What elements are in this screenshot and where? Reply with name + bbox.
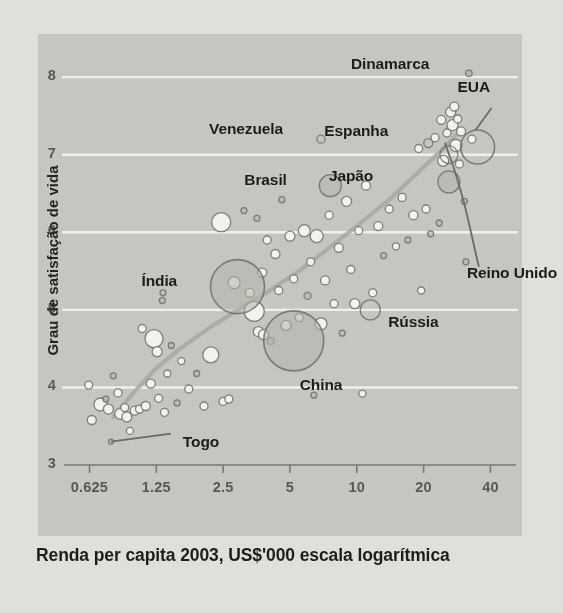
data-point bbox=[418, 287, 425, 294]
data-point bbox=[321, 276, 330, 285]
data-point bbox=[415, 145, 423, 153]
x-tick-label: 0.625 bbox=[63, 479, 117, 495]
data-point bbox=[374, 222, 383, 231]
point-label-china: China bbox=[300, 376, 343, 394]
data-point bbox=[145, 330, 163, 348]
data-point bbox=[342, 196, 352, 206]
x-tick-label: 20 bbox=[397, 479, 451, 495]
chart-figure: 3 4 5 6 7 8 0.625 1.25 2.5 5 10 20 40 Gr… bbox=[0, 0, 563, 613]
data-point bbox=[194, 371, 200, 377]
x-tick-label: 40 bbox=[463, 479, 517, 495]
data-point bbox=[159, 298, 165, 304]
data-point bbox=[103, 396, 109, 402]
data-point-eua bbox=[461, 130, 495, 164]
point-label-reino-unido: Reino Unido bbox=[467, 264, 557, 282]
data-point bbox=[409, 211, 418, 220]
data-point bbox=[436, 220, 442, 226]
data-point bbox=[359, 390, 366, 397]
data-point--ndia bbox=[211, 260, 265, 314]
data-point bbox=[241, 208, 247, 214]
point-label-dinamarca: Dinamarca bbox=[351, 55, 429, 73]
data-point bbox=[121, 404, 129, 412]
data-point bbox=[122, 412, 132, 422]
data-point bbox=[212, 213, 231, 232]
data-point bbox=[285, 231, 295, 241]
leader-line-eua bbox=[476, 108, 492, 130]
data-point bbox=[385, 205, 393, 213]
data-point bbox=[203, 347, 219, 363]
data-point bbox=[168, 343, 174, 349]
point-label-r-ssia: Rússia bbox=[388, 313, 438, 331]
x-tick-label: 1.25 bbox=[129, 479, 183, 495]
data-point bbox=[279, 197, 285, 203]
data-point bbox=[330, 300, 338, 308]
data-point bbox=[110, 373, 116, 379]
data-point bbox=[271, 250, 280, 259]
data-point bbox=[355, 227, 363, 235]
data-point bbox=[392, 243, 399, 250]
data-point bbox=[160, 290, 166, 296]
data-point bbox=[263, 236, 271, 244]
data-point bbox=[87, 416, 96, 425]
data-point bbox=[450, 102, 459, 111]
y-tick-label: 8 bbox=[34, 67, 56, 83]
leader-line-togo bbox=[111, 434, 171, 442]
data-point bbox=[437, 115, 446, 124]
data-point bbox=[381, 253, 387, 259]
data-point bbox=[398, 193, 406, 201]
data-point bbox=[339, 330, 345, 336]
data-point bbox=[369, 289, 377, 297]
data-point bbox=[164, 370, 171, 377]
point-label-jap-o: Japão bbox=[329, 167, 373, 185]
data-point bbox=[350, 299, 360, 309]
data-point bbox=[405, 237, 411, 243]
data-point bbox=[325, 211, 333, 219]
data-point bbox=[155, 394, 163, 402]
point-label-espanha: Espanha bbox=[324, 122, 388, 140]
data-point bbox=[146, 379, 155, 388]
data-point bbox=[304, 292, 311, 299]
x-tick-label: 2.5 bbox=[196, 479, 250, 495]
data-point bbox=[254, 215, 260, 221]
data-point bbox=[161, 408, 169, 416]
data-point bbox=[138, 325, 146, 333]
data-point bbox=[468, 135, 476, 143]
data-point bbox=[126, 427, 133, 434]
data-point bbox=[310, 230, 323, 243]
point-label-brasil: Brasil bbox=[244, 171, 286, 189]
data-point bbox=[85, 381, 93, 389]
point-label-venezuela: Venezuela bbox=[209, 120, 283, 138]
x-axis-title: Renda per capita 2003, US$'000 escala lo… bbox=[36, 545, 536, 566]
data-point bbox=[275, 287, 283, 295]
data-point bbox=[455, 160, 463, 168]
data-point bbox=[200, 402, 208, 410]
data-point bbox=[290, 275, 298, 283]
data-point bbox=[298, 225, 310, 237]
data-point bbox=[225, 395, 233, 403]
data-point bbox=[347, 266, 355, 274]
data-point bbox=[178, 358, 185, 365]
data-point-dinamarca bbox=[466, 70, 472, 76]
point-label-togo: Togo bbox=[183, 433, 219, 451]
data-point bbox=[334, 243, 343, 252]
data-point bbox=[103, 404, 113, 414]
data-point bbox=[307, 258, 315, 266]
data-point bbox=[185, 385, 193, 393]
x-tick-label: 5 bbox=[263, 479, 317, 495]
y-tick-label: 3 bbox=[34, 455, 56, 471]
data-point bbox=[422, 205, 430, 213]
data-point bbox=[114, 389, 122, 397]
y-axis-title: Grau de satisfação de vida bbox=[44, 131, 61, 391]
data-point bbox=[457, 127, 466, 136]
data-point bbox=[454, 115, 462, 123]
point-label-eua: EUA bbox=[458, 78, 490, 96]
data-point-china bbox=[264, 311, 324, 371]
x-tick-label: 10 bbox=[330, 479, 384, 495]
data-point bbox=[174, 400, 180, 406]
data-point-espanha bbox=[424, 139, 433, 148]
data-point bbox=[141, 402, 150, 411]
data-point bbox=[152, 347, 162, 357]
data-point bbox=[428, 231, 434, 237]
point-label--ndia: Índia bbox=[141, 272, 177, 290]
